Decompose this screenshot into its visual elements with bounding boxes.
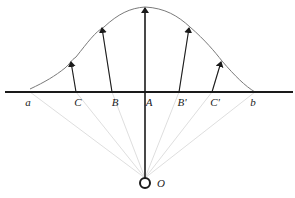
arrow-B [102,28,112,92]
label-Cp: C' [210,96,220,108]
ray-a [30,92,145,178]
arrow-Bp [179,28,189,92]
wave-diagram: aCBAB'C'b O [0,0,295,198]
ray-C [76,92,145,178]
label-a: a [25,96,31,108]
label-C: C [74,96,82,108]
source-label: O [157,177,165,189]
source-point-o [140,178,150,188]
rays-from-source [30,28,255,178]
label-B: B [112,96,119,108]
point-labels: aCBAB'C'b [25,96,256,108]
label-Bp: B' [177,96,187,108]
envelope-curve [30,7,255,92]
arrow-C [71,62,76,92]
arrow-Cp [212,62,221,92]
ray-b [145,92,255,178]
label-b: b [250,96,256,108]
label-A: A [145,96,153,108]
